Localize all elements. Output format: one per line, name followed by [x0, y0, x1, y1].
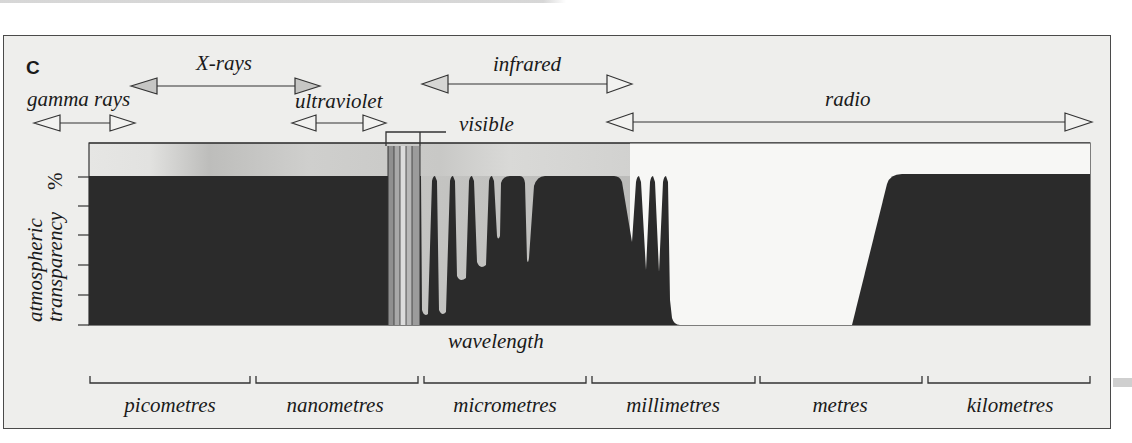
long-radio-opaque-region: [852, 174, 1090, 325]
x-axis-label: wavelength: [448, 329, 544, 353]
scale-label-picometres: picometres: [122, 393, 215, 417]
scale-label-micrometres: micrometres: [453, 393, 556, 417]
spectrum-diagram: C atmospheric transparency % X-rays gamm…: [0, 0, 1132, 443]
arrow-gamma-rays: [34, 115, 135, 131]
scale-label-nanometres: nanometres: [286, 393, 383, 417]
label-radio: radio: [825, 87, 871, 111]
visible-window: [388, 146, 420, 325]
arrow-ultraviolet: [292, 115, 386, 131]
arrow-radio: [607, 113, 1092, 131]
y-axis-label-line2: transparency: [43, 211, 67, 322]
scale-label-metres: metres: [812, 393, 867, 417]
label-ultraviolet: ultraviolet: [295, 89, 384, 113]
arrow-infrared: [422, 75, 632, 93]
panel-letter: C: [26, 57, 40, 78]
y-axis-ticks: [78, 177, 89, 325]
opaque-region-short-wave: [89, 176, 388, 325]
label-infrared: infrared: [493, 52, 562, 76]
scale-label-millimetres: millimetres: [626, 393, 720, 417]
scale-brackets: [90, 376, 1090, 383]
label-x-rays: X-rays: [195, 51, 252, 75]
label-visible: visible: [459, 112, 514, 136]
arrow-x-rays: [131, 78, 320, 94]
y-axis-unit: %: [43, 173, 67, 191]
label-gamma-rays: gamma rays: [27, 87, 130, 111]
scale-label-kilometres: kilometres: [967, 393, 1054, 417]
